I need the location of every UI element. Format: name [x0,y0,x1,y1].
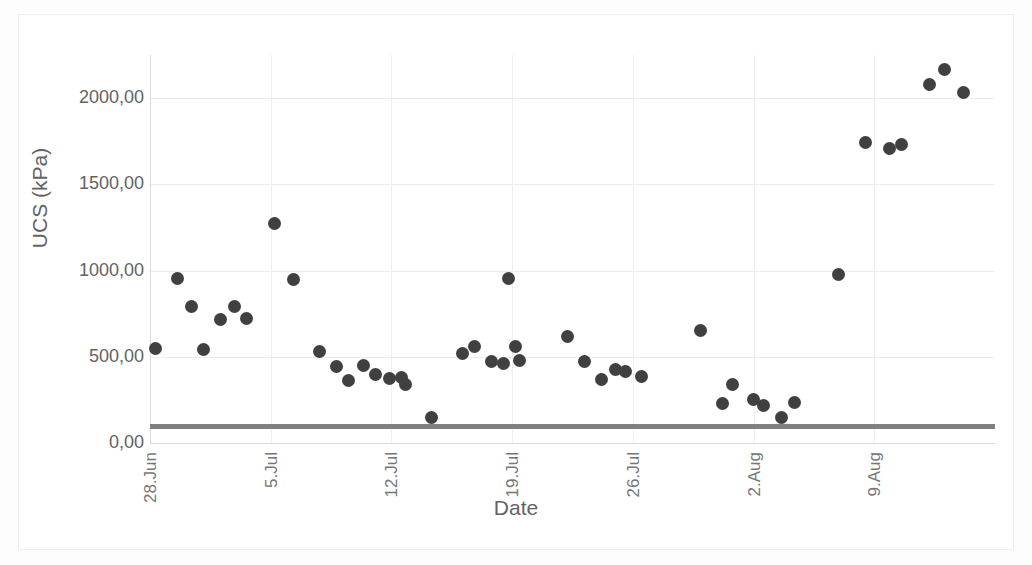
y-axis-title: UCS (kPa) [28,98,52,298]
data-point [369,368,382,381]
x-tick-label: 26.Jul [624,452,644,497]
data-point [859,136,872,149]
data-point [456,347,469,360]
data-point [313,345,326,358]
data-point [171,272,184,285]
data-point [214,313,227,326]
data-point [287,273,300,286]
data-point [399,378,412,391]
data-point [502,272,515,285]
data-point [938,63,951,76]
y-axis-tick-labels: 0,00500,001000,001500,002000,00 [48,55,144,444]
x-axis-line [150,443,995,444]
data-point [578,355,591,368]
data-point [832,268,845,281]
data-point [775,411,788,424]
data-point [895,138,908,151]
data-point [342,374,355,387]
data-point [383,372,396,385]
data-point [497,357,510,370]
x-axis-tick-labels: 28.Jun5.Jul12.Jul19.Jul26.Jul2.Aug9.Aug [150,452,995,532]
data-point [595,373,608,386]
data-point [923,78,936,91]
data-point [509,340,522,353]
data-point [357,359,370,372]
x-tick-label: 2.Aug [745,452,765,496]
data-point [485,355,498,368]
y-tick-label: 500,00 [52,346,144,367]
data-point [197,343,210,356]
data-point [619,365,632,378]
data-point [957,86,970,99]
data-point [425,411,438,424]
data-point [240,312,253,325]
data-point [185,300,198,313]
x-tick-label: 5.Jul [262,452,282,488]
chart-container: 0,00500,001000,001500,002000,00 28.Jun5.… [0,0,1032,565]
data-point [757,399,770,412]
y-tick-label: 2000,00 [52,87,144,108]
data-point [635,370,648,383]
data-point [883,142,896,155]
x-axis-title: Date [0,496,1032,520]
y-tick-label: 1000,00 [52,260,144,281]
x-tick-label: 19.Jul [503,452,523,497]
data-point [561,330,574,343]
y-tick-label: 0,00 [52,432,144,453]
x-tick-label: 12.Jul [382,452,402,497]
data-point [716,397,729,410]
data-point [330,360,343,373]
data-point [468,340,481,353]
data-point [694,324,707,337]
data-point [513,354,526,367]
scatter-series-ucs [150,55,995,443]
data-point [228,300,241,313]
data-point [788,396,801,409]
x-tick-label: 9.Aug [865,452,885,496]
data-point [726,378,739,391]
data-point [149,342,162,355]
data-point [268,217,281,230]
y-tick-label: 1500,00 [52,173,144,194]
